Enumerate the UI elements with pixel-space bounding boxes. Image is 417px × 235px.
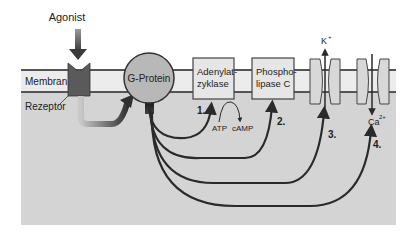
agonist-label: Agonist bbox=[49, 11, 86, 23]
calcium-label: Ca bbox=[368, 117, 380, 127]
g-protein-signaling-diagram: Membran Rezeptor Agonist G-Protein Adeny… bbox=[0, 0, 417, 235]
adenylate-label-2: zyklase bbox=[197, 78, 229, 89]
pathway-number-2: 2. bbox=[277, 116, 286, 127]
potassium-sup: + bbox=[328, 34, 332, 40]
agonist-arrow-shaft bbox=[75, 29, 81, 51]
phospho-label-2: lipase C bbox=[256, 78, 290, 89]
g-protein-label: G-Protein bbox=[128, 73, 171, 84]
adenylate-label-1: Adenylat- bbox=[197, 66, 237, 77]
agonist-arrow-head bbox=[69, 49, 87, 60]
potassium-label: K bbox=[321, 36, 327, 46]
atp-label: ATP bbox=[212, 124, 227, 133]
pathway-number-3: 3. bbox=[328, 129, 337, 140]
calcium-sup: 2+ bbox=[379, 114, 386, 120]
pathway-number-4: 4. bbox=[373, 139, 382, 150]
receptor bbox=[68, 63, 90, 96]
camp-label: cAMP bbox=[232, 124, 253, 133]
receptor-label: Rezeptor bbox=[25, 101, 66, 112]
pathway-number-1: 1. bbox=[197, 105, 206, 116]
membrane-label: Membran bbox=[25, 76, 67, 87]
phospho-label-1: Phospho- bbox=[256, 66, 297, 77]
